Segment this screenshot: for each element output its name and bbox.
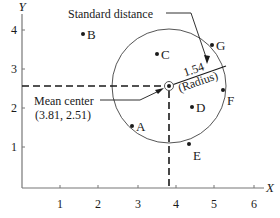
y-tick-label: 4	[11, 23, 17, 37]
point-c: C	[155, 47, 170, 62]
mean-center-coords: (3.81, 2.51)	[35, 108, 91, 122]
point-d: D	[190, 100, 205, 115]
mean-center-annotation: Mean center (3.81, 2.51)	[34, 88, 164, 122]
point-g: G	[210, 38, 225, 53]
svg-text:B: B	[87, 27, 96, 42]
standard-distance-annotation: Standard distance 1.54 (Radius)	[68, 7, 220, 95]
x-tick-label: 6	[251, 197, 257, 211]
point-e: E	[187, 142, 201, 163]
point-b: B	[81, 27, 96, 42]
svg-text:F: F	[227, 93, 234, 108]
x-tick-label: 5	[211, 197, 217, 211]
mean-center-leader	[100, 90, 161, 100]
arrowhead-icon	[204, 55, 210, 64]
svg-text:C: C	[161, 47, 170, 62]
svg-text:D: D	[196, 100, 205, 115]
x-tick-label: 2	[95, 197, 101, 211]
svg-text:E: E	[193, 148, 201, 163]
x-tick-label: 3	[135, 197, 141, 211]
x-tick-label: 4	[173, 197, 179, 211]
y-tick-label: 2	[11, 101, 17, 115]
point-a: A	[130, 119, 146, 134]
svg-text:A: A	[136, 119, 146, 134]
mean-center-marker	[165, 82, 174, 91]
arrowhead-icon	[155, 88, 164, 94]
standard-distance-leader	[166, 13, 207, 60]
mean-center-label: Mean center	[34, 94, 94, 108]
y-tick-label: 1	[11, 140, 17, 154]
standard-distance-diagram: 1 2 3 4 5 6 1 2 3 4 X Y A B C	[0, 0, 280, 218]
y-axis-title: Y	[18, 0, 27, 14]
x-tick-label: 1	[57, 197, 63, 211]
x-axis-title: X	[265, 180, 275, 195]
standard-distance-label: Standard distance	[68, 7, 153, 21]
svg-text:G: G	[216, 38, 225, 53]
y-tick-label: 3	[11, 62, 17, 76]
